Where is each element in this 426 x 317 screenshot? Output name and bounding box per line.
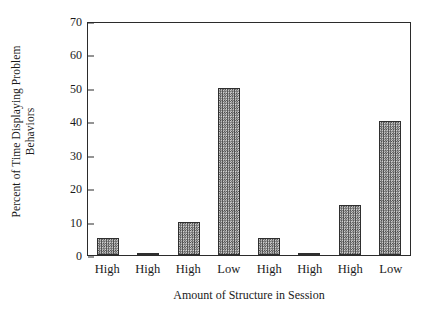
y-axis-tick-label: 20	[70, 183, 82, 195]
bar-slot	[209, 23, 249, 255]
bar	[298, 253, 320, 255]
y-axis-tick-labels: 010203040506070	[46, 0, 87, 262]
bar	[379, 121, 401, 255]
bar-series	[88, 23, 410, 255]
bar-chart-figure: Percent of Time Displaying Problem Behav…	[0, 0, 426, 317]
bar	[178, 222, 200, 255]
bar	[258, 238, 280, 255]
bar	[218, 88, 240, 255]
bar-slot	[169, 23, 209, 255]
y-axis-title: Percent of Time Displaying Problem Behav…	[0, 0, 46, 262]
y-axis-tick-label: 60	[70, 49, 82, 61]
y-axis-tick-label: 50	[70, 83, 82, 95]
y-axis-tick-mark	[88, 257, 94, 258]
plot-area	[87, 22, 411, 256]
bar-slot	[289, 23, 329, 255]
x-axis-category-label: High	[128, 262, 169, 276]
x-axis-category-label: High	[290, 262, 331, 276]
y-axis-tick-label: 40	[70, 116, 82, 128]
x-axis-category-label: Low	[209, 262, 250, 276]
x-axis-category-labels: HighHighHighLowHighHighHighLow	[87, 262, 411, 282]
bar-slot	[249, 23, 289, 255]
bar-slot	[330, 23, 370, 255]
bar-slot	[370, 23, 410, 255]
x-axis-category-label: High	[330, 262, 371, 276]
y-axis-tick-label: 0	[76, 250, 82, 262]
bar-slot	[88, 23, 128, 255]
bar-slot	[128, 23, 168, 255]
y-axis-tick-label: 30	[70, 150, 82, 162]
x-axis-title: Amount of Structure in Session	[87, 288, 411, 302]
y-axis-title-line-1: Percent of Time Displaying Problem	[10, 45, 24, 217]
x-axis-category-label: High	[87, 262, 128, 276]
bar	[339, 205, 361, 255]
y-axis-tick-label: 10	[70, 217, 82, 229]
x-axis-category-label: High	[249, 262, 290, 276]
bar	[137, 253, 159, 255]
y-axis-title-line-2: Behaviors	[23, 45, 37, 217]
x-axis-category-label: Low	[371, 262, 412, 276]
y-axis-tick-label: 70	[70, 16, 82, 28]
x-axis-category-label: High	[168, 262, 209, 276]
bar	[97, 238, 119, 255]
